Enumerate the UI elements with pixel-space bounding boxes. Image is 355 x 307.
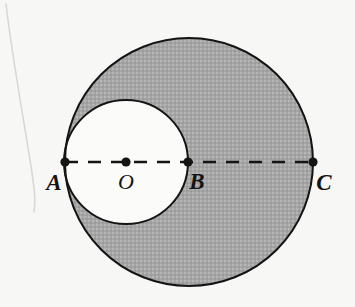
point-o-dot — [121, 157, 130, 166]
point-a-label: A — [44, 170, 61, 195]
point-c-dot — [308, 157, 317, 166]
point-b-dot — [183, 157, 192, 166]
point-c-label: C — [316, 170, 332, 195]
point-o-label: O — [118, 169, 134, 194]
point-b-label: B — [188, 169, 204, 194]
geometry-figure-container: A O B C — [0, 0, 355, 307]
point-a-dot — [60, 157, 69, 166]
geometry-figure-svg: A O B C — [0, 0, 355, 307]
